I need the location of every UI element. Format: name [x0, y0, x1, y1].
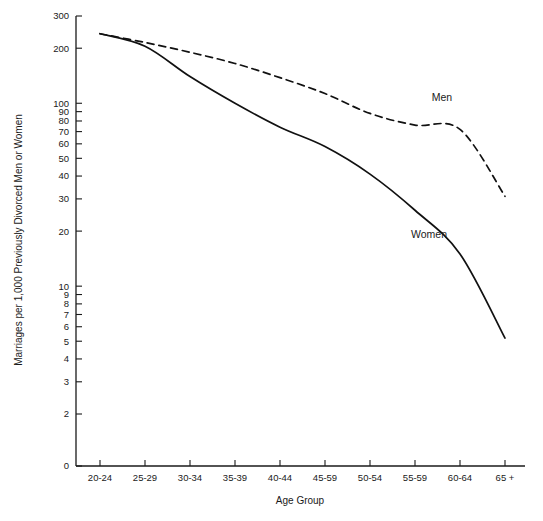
- x-tick-label: 60-64: [448, 472, 472, 483]
- y-tick: 5: [64, 336, 82, 347]
- y-tick: 4: [64, 353, 82, 364]
- chart-container: 300200100908070605040302010987654320 Mar…: [0, 0, 543, 521]
- x-tick: 40-44: [268, 460, 292, 483]
- y-tick-label: 3: [64, 376, 69, 387]
- y-tick-label: 7: [64, 309, 69, 320]
- x-tick: 30-34: [178, 460, 202, 483]
- x-tick-label: 40-44: [268, 472, 292, 483]
- y-tick-label: 50: [58, 153, 69, 164]
- x-tick: 35-39: [223, 460, 247, 483]
- y-tick-label: 6: [64, 321, 69, 332]
- x-tick-label: 25-29: [133, 472, 157, 483]
- x-tick: 45-59: [313, 460, 337, 483]
- y-tick-label: 8: [64, 298, 69, 309]
- y-tick-label: 40: [58, 170, 69, 181]
- y-tick: 50: [58, 153, 82, 164]
- y-tick: 10: [58, 281, 82, 292]
- y-axis-ticks: 300200100908070605040302010987654320: [53, 10, 82, 471]
- series-label-women: Women: [411, 228, 447, 240]
- series-label-men: Men: [432, 91, 453, 103]
- y-tick: 80: [58, 115, 82, 126]
- y-tick: 30: [58, 193, 82, 204]
- x-axis-group: 20-2425-2930-3435-3940-4445-5950-5455-59…: [76, 460, 525, 506]
- y-tick-label: 0: [64, 460, 69, 471]
- y-tick: 7: [64, 309, 82, 320]
- x-tick: 20-24: [88, 460, 112, 483]
- y-tick: 70: [58, 126, 82, 137]
- x-tick: 55-59: [403, 460, 427, 483]
- y-tick-label: 5: [64, 336, 69, 347]
- y-tick-label: 300: [53, 10, 69, 21]
- y-tick-label: 60: [58, 138, 69, 149]
- x-tick-label: 55-59: [403, 472, 427, 483]
- y-axis-group: 300200100908070605040302010987654320 Mar…: [13, 10, 82, 471]
- x-tick: 50-54: [358, 460, 382, 483]
- line-chart: 300200100908070605040302010987654320 Mar…: [0, 0, 543, 521]
- x-tick-label: 65 +: [496, 472, 515, 483]
- y-tick: 20: [58, 226, 82, 237]
- y-tick-label: 4: [64, 353, 69, 364]
- x-tick-label: 50-54: [358, 472, 382, 483]
- y-tick: 2: [64, 408, 82, 419]
- x-tick: 65 +: [496, 460, 515, 483]
- y-axis-title: Marriages per 1,000 Previously Divorced …: [13, 114, 24, 366]
- x-tick: 25-29: [133, 460, 157, 483]
- x-tick-label: 35-39: [223, 472, 247, 483]
- y-tick: 6: [64, 321, 82, 332]
- series-line-men: [100, 34, 505, 197]
- y-tick: 3: [64, 376, 82, 387]
- y-tick-label: 2: [64, 408, 69, 419]
- y-tick-label: 200: [53, 43, 69, 54]
- series-label-group: MenWomen: [411, 91, 452, 240]
- y-tick: 300: [53, 10, 82, 21]
- data-series-group: [100, 34, 505, 338]
- x-tick-label: 30-34: [178, 472, 202, 483]
- y-tick: 8: [64, 298, 82, 309]
- x-axis-title: Age Group: [276, 495, 325, 506]
- y-tick: 200: [53, 43, 82, 54]
- x-axis-ticks: 20-2425-2930-3435-3940-4445-5950-5455-59…: [88, 460, 515, 483]
- y-tick: 60: [58, 138, 82, 149]
- y-tick: 40: [58, 170, 82, 181]
- x-tick-label: 20-24: [88, 472, 112, 483]
- x-tick-label: 45-59: [313, 472, 337, 483]
- y-tick-label: 80: [58, 115, 69, 126]
- y-tick-label: 70: [58, 126, 69, 137]
- x-tick: 60-64: [448, 460, 472, 483]
- y-tick-label: 20: [58, 226, 69, 237]
- series-line-women: [100, 34, 505, 338]
- y-tick-label: 30: [58, 193, 69, 204]
